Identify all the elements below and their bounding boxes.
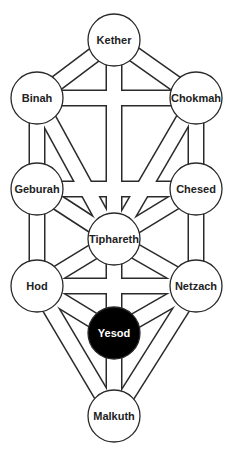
- sephirah-label: Chokmah: [171, 92, 221, 104]
- sephirah-label: Chesed: [176, 183, 216, 195]
- sephirah-binah: Binah: [11, 72, 63, 124]
- sephirah-chesed: Chesed: [170, 163, 222, 215]
- sephirah-yesod: Yesod: [88, 307, 140, 359]
- sephirah-malkuth: Malkuth: [88, 390, 140, 442]
- sephirah-netzach: Netzach: [170, 260, 222, 312]
- sephirah-label: Binah: [22, 92, 53, 104]
- sephirah-label: Yesod: [98, 327, 130, 339]
- sephirah-label: Hod: [26, 280, 47, 292]
- sephirah-geburah: Geburah: [11, 163, 63, 215]
- sephirah-kether: Kether: [88, 14, 140, 66]
- sephirah-label: Tiphareth: [89, 233, 139, 245]
- sephirah-hod: Hod: [11, 260, 63, 312]
- sephirah-chokmah: Chokmah: [170, 72, 222, 124]
- tree-of-life-diagram: KetherBinahChokmahGeburahChesedTiphareth…: [0, 0, 235, 450]
- sephirah-label: Kether: [97, 34, 133, 46]
- sephirah-label: Malkuth: [93, 410, 135, 422]
- sephirah-tiphareth: Tiphareth: [88, 213, 140, 265]
- sephirah-label: Geburah: [14, 183, 60, 195]
- sephirah-label: Netzach: [175, 280, 217, 292]
